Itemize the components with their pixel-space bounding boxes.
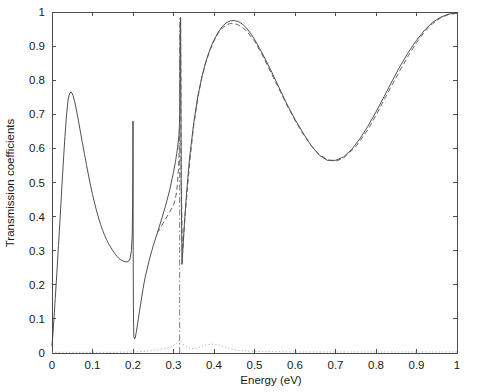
tick-labels: 00.10.20.30.40.50.60.70.80.9100.10.20.30… [29,6,460,371]
y-tick-label: 0.6 [29,142,45,154]
chart-canvas: 00.10.20.30.40.50.60.70.80.9100.10.20.30… [0,0,481,392]
x-tick-label: 0.2 [125,359,141,371]
x-tick-label: 0.9 [409,359,425,371]
y-tick-label: 0 [39,347,45,359]
y-tick-label: 0.8 [29,74,45,86]
axes [52,12,457,353]
x-tick-label: 0.5 [247,359,263,371]
y-tick-label: 0.1 [29,313,45,325]
y-axis-title: Transmission coefficients [4,119,16,248]
y-tick-label: 0.4 [29,211,46,223]
data-series [52,13,457,353]
x-tick-label: 0.6 [287,359,303,371]
y-tick-label: 0.2 [29,279,45,291]
x-tick-label: 0.8 [368,359,384,371]
y-tick-label: 0.7 [29,108,45,120]
x-tick-label: 1 [454,359,460,371]
x-axis-title: Energy (eV) [240,374,302,386]
x-tick-label: 0.4 [206,359,223,371]
x-tick-label: 0 [49,359,55,371]
y-tick-label: 1 [39,6,45,18]
transmission-coefficients-figure: 00.10.20.30.40.50.60.70.80.9100.10.20.30… [0,0,481,392]
axis-frame [52,12,457,353]
y-tick-label: 0.5 [29,177,45,189]
x-tick-label: 0.3 [166,359,182,371]
series-line-solid [52,13,457,346]
y-tick-label: 0.9 [29,40,45,52]
x-tick-label: 0.1 [85,359,101,371]
y-tick-label: 0.3 [29,245,45,257]
series-line-dashed [157,13,457,254]
x-tick-label: 0.7 [328,359,344,371]
